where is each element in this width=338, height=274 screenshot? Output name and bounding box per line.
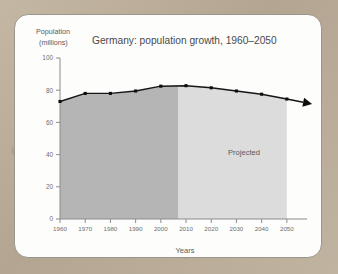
x-tick-label: 2030 [230, 225, 244, 232]
series-end-arrow-icon [302, 98, 312, 107]
y-tick-label: 100 [42, 54, 53, 61]
y-tick-label: 80 [46, 87, 54, 94]
x-axis-ticks: 1960197019801990200020102020203020402050 [53, 219, 294, 232]
data-point-marker [235, 89, 238, 92]
data-point-marker [260, 93, 263, 96]
y-tick-label: 0 [49, 215, 53, 222]
data-point-marker [84, 92, 87, 95]
historical-region-fill [60, 86, 178, 219]
data-point-marker [184, 84, 187, 87]
chart-plot-area: Germany: population growth, 1960–2050 Po… [15, 15, 321, 257]
data-point-marker [285, 98, 288, 101]
y-axis-label-line2: (millions) [39, 38, 68, 47]
x-tick-label: 2050 [280, 225, 294, 232]
chart-card: Germany: population growth, 1960–2050 Po… [14, 14, 322, 258]
population-growth-line-chart: Germany: population growth, 1960–2050 Po… [15, 15, 322, 258]
x-tick-label: 2040 [255, 225, 269, 232]
data-point-marker [210, 86, 213, 89]
data-point-marker [58, 100, 61, 103]
y-tick-label: 20 [46, 183, 54, 190]
data-point-marker [109, 92, 112, 95]
x-tick-label: 2010 [179, 225, 193, 232]
data-point-marker [159, 85, 162, 88]
data-point-marker [134, 89, 137, 92]
x-tick-label: 1980 [104, 225, 118, 232]
projected-annotation: Projected [228, 148, 260, 157]
y-axis-label-line1: Population [36, 27, 70, 36]
x-tick-label: 1960 [53, 225, 67, 232]
x-tick-label: 1970 [78, 225, 92, 232]
y-axis-ticks: 020406080100 [42, 54, 60, 222]
x-tick-label: 2000 [154, 225, 168, 232]
chart-title: Germany: population growth, 1960–2050 [92, 35, 277, 46]
x-axis-label: Years [175, 246, 194, 255]
x-tick-label: 2020 [204, 225, 218, 232]
x-tick-label: 1990 [129, 225, 143, 232]
y-tick-label: 60 [46, 119, 54, 126]
y-tick-label: 40 [46, 151, 54, 158]
